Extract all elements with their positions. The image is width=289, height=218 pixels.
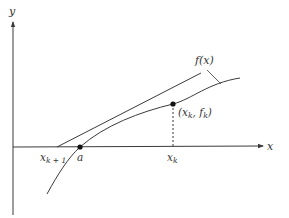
x-axis bbox=[13, 146, 263, 147]
current-point bbox=[170, 101, 175, 106]
newton-method-diagram: y x f(x) (xk, fk) xk + 1 a xk bbox=[0, 0, 289, 218]
xk1-label: xk + 1 bbox=[40, 151, 66, 165]
root-label: a bbox=[77, 151, 83, 163]
current-point-label: (xk, fk) bbox=[178, 106, 212, 120]
xk-label: xk bbox=[167, 151, 178, 165]
y-axis-label: y bbox=[8, 5, 16, 18]
curve-label-leader bbox=[207, 70, 221, 84]
curve-label: f(x) bbox=[194, 54, 214, 67]
function-curve bbox=[47, 78, 240, 194]
x-axis-label: x bbox=[267, 140, 274, 153]
root-point bbox=[77, 144, 82, 149]
